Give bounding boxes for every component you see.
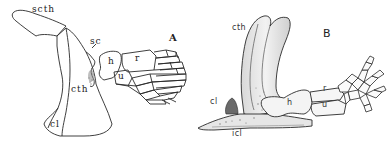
anatomical-figure: scth sc cth cl h r u A (0, 0, 389, 145)
label-u-b: u (322, 101, 328, 109)
label-r-b: r (323, 85, 327, 93)
label-h-b: h (287, 99, 293, 107)
label-cl-b: cl (210, 98, 218, 106)
label-cth-b: cth (232, 24, 246, 32)
panel-b-drawing (0, 0, 389, 145)
panel-letter-b: B (323, 28, 331, 39)
label-icl: icl (232, 130, 242, 138)
